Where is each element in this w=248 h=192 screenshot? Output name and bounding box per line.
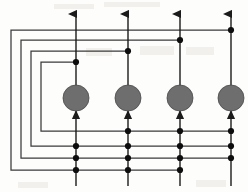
junction-dot-r3-t2[interactable] — [125, 155, 131, 161]
gain-node-4[interactable] — [218, 85, 244, 111]
junction-dot-r1-t4[interactable] — [228, 128, 234, 134]
gain-node-1[interactable] — [63, 85, 89, 111]
junction-dot-r2-t1[interactable] — [73, 143, 79, 149]
junction-dot-r2-t3[interactable] — [177, 143, 183, 149]
junction-dot-r4-t2[interactable] — [125, 167, 131, 173]
junction-dot-r4-t3[interactable] — [177, 167, 183, 173]
junction-dot-r3-t1[interactable] — [73, 155, 79, 161]
gain-node-2[interactable] — [115, 85, 141, 111]
signal-flow-schematic — [0, 0, 248, 192]
junction-dot-r1-t3[interactable] — [177, 128, 183, 134]
junction-dot-tap-2[interactable] — [125, 48, 131, 54]
junction-dot-r3-t4[interactable] — [228, 155, 234, 161]
junction-dot-r2-t2[interactable] — [125, 143, 131, 149]
junction-dot-tap-4[interactable] — [228, 27, 234, 33]
junction-dot-r4-t1[interactable] — [73, 167, 79, 173]
junction-dot-r1-t2[interactable] — [125, 128, 131, 134]
junction-dot-r2-t4[interactable] — [228, 143, 234, 149]
gain-node-3[interactable] — [167, 85, 193, 111]
diagram-canvas — [0, 0, 248, 192]
junction-dot-r3-t3[interactable] — [177, 155, 183, 161]
junction-dot-tap-3[interactable] — [177, 37, 183, 43]
junction-dot-tap-1[interactable] — [73, 59, 79, 65]
